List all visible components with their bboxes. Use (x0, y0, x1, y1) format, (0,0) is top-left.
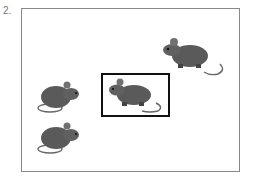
mouse-icon-center-selected[interactable] (106, 77, 166, 113)
question-number: 2. (3, 5, 11, 16)
mouse-icon-left-upper[interactable] (36, 80, 84, 114)
mouse-icon-left-lower[interactable] (36, 121, 84, 155)
mouse-icon-top-right[interactable] (160, 36, 226, 76)
